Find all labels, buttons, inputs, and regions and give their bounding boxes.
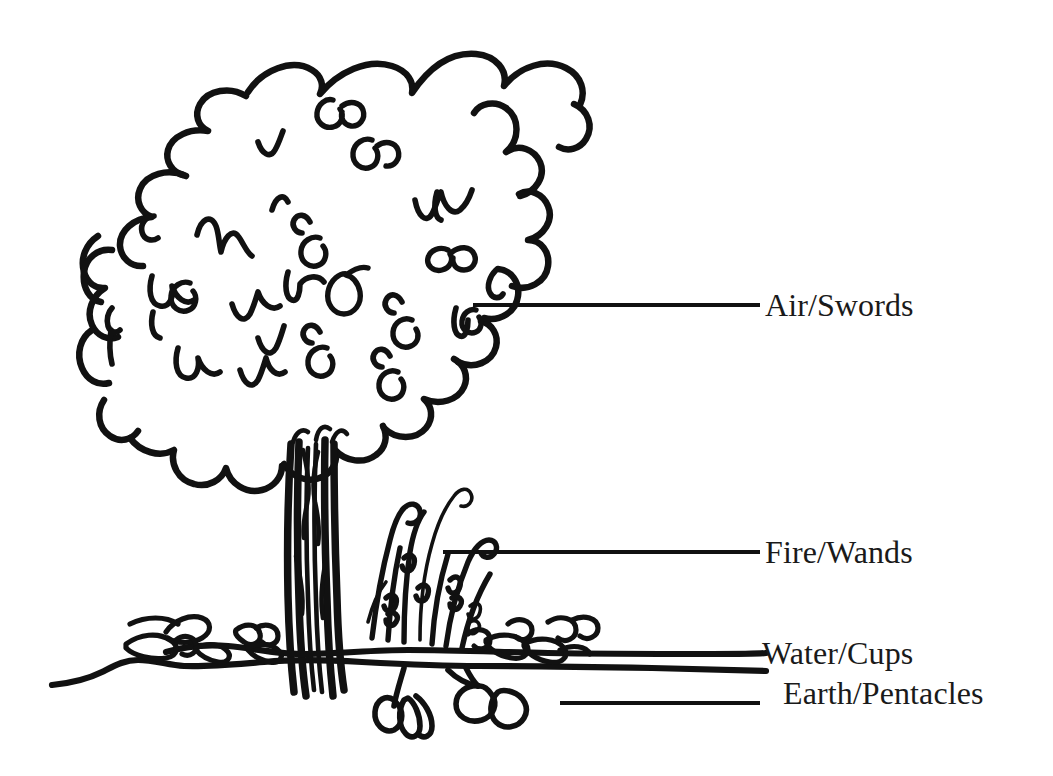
leaf-circle-8 xyxy=(353,139,399,168)
leaf-circle-2 xyxy=(428,248,476,271)
ground-line-main xyxy=(52,660,766,685)
label-earth-pentacles: Earth/Pentacles xyxy=(783,677,984,709)
label-fire-wands: Fire/Wands xyxy=(765,536,913,568)
label-water-cups: Water/Cups xyxy=(762,637,913,669)
leaf-squiggle-m-1 xyxy=(197,219,252,256)
leaf-squiggle-u-3 xyxy=(152,312,160,338)
grass-group xyxy=(368,489,496,648)
ground-group xyxy=(52,645,766,685)
grass-blade-7 xyxy=(462,574,490,648)
label-air-swords: Air/Swords xyxy=(765,289,914,321)
leaf-circle-7 xyxy=(308,347,333,376)
ground-plants-group xyxy=(126,617,598,663)
canopy-outline-top xyxy=(248,54,583,105)
leaf-squiggle-v-3 xyxy=(258,131,283,155)
leaf-squiggle-u-2 xyxy=(176,348,220,378)
trunk-branch-top-3 xyxy=(332,431,347,442)
leaf-circle-10 xyxy=(462,310,481,333)
leaf-squiggle-hook-3 xyxy=(303,325,320,343)
leaf-squiggle-s-1 xyxy=(488,270,503,298)
leaf-squiggle-w-1 xyxy=(415,190,472,218)
leaf-squiggle-hook-2 xyxy=(293,215,310,233)
canopy-group xyxy=(79,54,589,491)
leaf-squiggle-v-1 xyxy=(232,292,280,319)
grass-blade-5 xyxy=(432,554,448,644)
leaf-squiggle-r-1 xyxy=(286,272,324,300)
tree-diagram: Air/Swords Fire/Wands Water/Cups Earth/P… xyxy=(0,0,1053,776)
canopy-outline-bottom-left xyxy=(130,438,282,491)
canopy-outline-left-bottom xyxy=(99,400,138,440)
canopy-outline-right xyxy=(512,192,550,288)
leaf-squiggle-m-2 xyxy=(272,197,288,210)
leaf-circle-4 xyxy=(393,319,418,347)
leaf-squiggle-w-2 xyxy=(240,358,285,385)
leaf-squiggle-hook-4 xyxy=(373,349,390,367)
ground-plant-left-top xyxy=(130,618,178,624)
leaf-squiggle-c-1 xyxy=(142,216,158,240)
leaf-circle-9 xyxy=(379,371,404,399)
leaf-squiggle-hook-1 xyxy=(385,295,402,313)
canopy-leaf-marks xyxy=(107,100,503,400)
canopy-outline-top-wiggle xyxy=(167,90,246,175)
leaf-circle-6 xyxy=(301,237,326,266)
canopy-outline-top-right-bump xyxy=(559,104,590,149)
leaf-circle-3 xyxy=(317,100,364,128)
canopy-outline-upper-right xyxy=(474,103,517,152)
canopy-outline-upper-left xyxy=(120,172,186,266)
leaf-squiggle-v-2 xyxy=(258,326,284,353)
leaf-circle-1 xyxy=(328,267,368,314)
roots-group xyxy=(375,668,526,737)
